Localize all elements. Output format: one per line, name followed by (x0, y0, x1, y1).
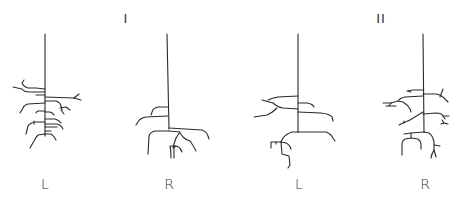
plant-label-I-L: L (41, 177, 49, 191)
root-system-II-L (254, 34, 335, 168)
root-system-I-L (13, 34, 81, 148)
plant-label-II-R: R (420, 177, 430, 191)
plant-label-II-L: L (295, 177, 303, 191)
plant-label-I-R: R (164, 177, 174, 191)
root-system-drawings (0, 0, 463, 201)
root-system-II-R (383, 34, 449, 158)
root-system-I-R (136, 34, 209, 158)
